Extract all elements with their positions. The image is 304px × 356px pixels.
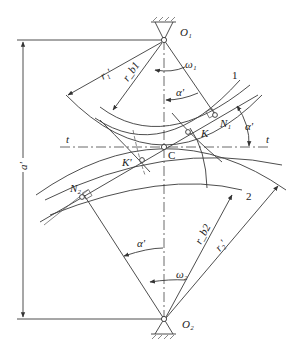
point-n1 bbox=[213, 113, 218, 118]
gear1-label: 1 bbox=[232, 69, 238, 81]
r1-pitch-radius-label: r₁' bbox=[98, 66, 114, 82]
alpha-right-label: α' bbox=[245, 120, 254, 132]
rb2-base-radius-label: r_b2 bbox=[192, 222, 213, 246]
o2-label: O₂ bbox=[182, 318, 194, 330]
involute-profile-dashed bbox=[133, 130, 145, 175]
point-k bbox=[186, 130, 191, 135]
point-n2 bbox=[80, 195, 85, 200]
omega1-arrow bbox=[155, 67, 185, 71]
omega1-label: ω₁ bbox=[185, 58, 197, 70]
point-o2 bbox=[161, 316, 166, 321]
omega2-arrow bbox=[150, 280, 185, 282]
o1-to-n1-line bbox=[164, 40, 214, 113]
o1-label: O₁ bbox=[180, 26, 192, 38]
k-prime-label: K' bbox=[121, 156, 132, 168]
gear2-label: 2 bbox=[246, 190, 252, 202]
alpha-bottom-label: α' bbox=[137, 237, 146, 249]
n2-label: N₂ bbox=[69, 182, 81, 194]
r1-pitch-radius bbox=[68, 42, 162, 95]
center-distance-label: a' bbox=[17, 162, 29, 171]
point-c bbox=[161, 144, 166, 149]
alpha-bottom-arc bbox=[124, 248, 163, 256]
bottom-pivot-support bbox=[151, 138, 176, 339]
point-o1 bbox=[161, 37, 166, 42]
top-pivot-support bbox=[151, 17, 176, 40]
c-label: C bbox=[168, 149, 175, 161]
tangent-label-left: t bbox=[66, 133, 70, 145]
k-label: K bbox=[200, 127, 209, 139]
point-k-prime bbox=[140, 158, 145, 163]
rb2-base-radius bbox=[166, 195, 232, 317]
rb1-base-radius-label: r_b1 bbox=[120, 59, 142, 83]
tangent-label-right: t bbox=[266, 133, 270, 145]
r2-pitch-radius-label: r₂' bbox=[212, 237, 228, 253]
gear-meshing-diagram: a' t t r₁' r_b1 r_b2 r₂' ω₁ α' α' α' ω₂ bbox=[0, 0, 304, 356]
o2-to-n2-line bbox=[84, 195, 164, 319]
alpha-top-label: α' bbox=[176, 86, 185, 98]
omega2-label: ω₂ bbox=[176, 268, 188, 280]
n1-label: N₁ bbox=[219, 117, 231, 129]
